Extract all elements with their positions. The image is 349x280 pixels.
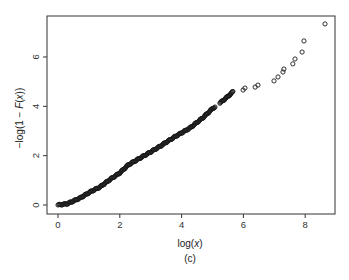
x-tick-label: 0 [55,219,60,230]
y-tick-label: 4 [30,104,41,109]
data-point [293,57,297,61]
axis-label-part: ) [199,238,202,249]
data-point [276,75,280,79]
axis-label-part: log( [177,238,194,249]
x-axis: 02468 [55,214,307,230]
data-point [272,79,276,83]
figure-caption: (c) [184,253,196,264]
y-tick-label: 0 [30,202,41,207]
axis-label-part: −log(1 − [14,109,25,148]
plot-frame [47,16,335,214]
x-tick-label: 2 [117,219,122,230]
x-tick-label: 4 [179,219,184,230]
data-point [323,22,327,26]
y-axis-label: −log(1 − F(x)) [14,88,25,149]
y-tick-label: 2 [30,153,41,158]
data-points [56,22,327,207]
axis-label-part: )) [14,88,25,95]
y-axis: 0246 [30,54,47,207]
x-tick-label: 6 [241,219,246,230]
x-axis-label: log(x) [177,238,202,249]
data-point [291,62,295,66]
data-point [300,50,304,54]
y-tick-label: 6 [30,54,41,59]
x-tick-label: 8 [303,219,308,230]
data-point [302,39,306,43]
chart: 02468 0246 log(x) −log(1 − F(x)) (c) [0,0,349,280]
